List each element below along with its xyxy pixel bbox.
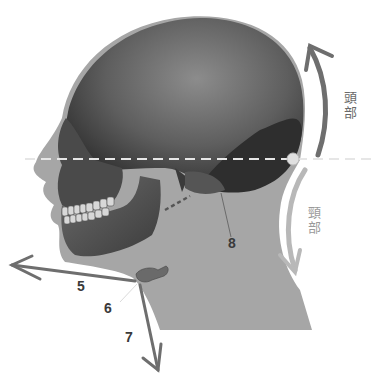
neck-label-char1: 頸 — [307, 205, 321, 220]
head-neck-anatomy-diagram: 頭 部 頸 部 5 6 7 8 — [0, 0, 377, 378]
diagram-graphics — [0, 0, 377, 378]
head-rotation-arrow — [306, 46, 332, 155]
label-8: 8 — [228, 236, 236, 250]
neck-label-char2: 部 — [307, 220, 321, 235]
leader-line-6 — [120, 284, 137, 302]
head-label-char1: 頭 — [343, 90, 357, 105]
neck-label: 頸 部 — [307, 205, 321, 235]
label-6: 6 — [104, 301, 112, 315]
head-label: 頭 部 — [343, 90, 357, 120]
label-5: 5 — [77, 279, 85, 293]
label-7: 7 — [125, 330, 133, 344]
head-label-char2: 部 — [343, 105, 357, 120]
reference-point — [287, 153, 299, 165]
